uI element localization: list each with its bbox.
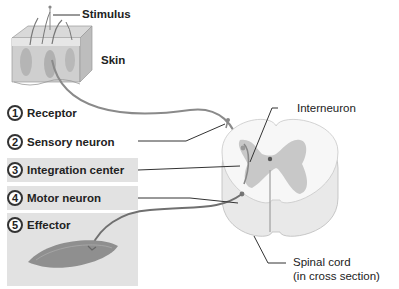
step-integration-center: 3 Integration center bbox=[7, 158, 124, 182]
skin-label: Skin bbox=[101, 54, 125, 66]
motor-neuron-path bbox=[92, 194, 242, 246]
step-number-2: 2 bbox=[7, 134, 23, 150]
step-number-3: 3 bbox=[7, 162, 23, 178]
effector-muscle bbox=[28, 240, 118, 267]
step-number-5: 5 bbox=[7, 217, 23, 233]
step-label-receptor: Receptor bbox=[27, 107, 77, 119]
step-number-4: 4 bbox=[7, 190, 23, 206]
reflex-arc-diagram: Stimulus Skin Interneuron Spinal cord (i… bbox=[0, 0, 399, 289]
step-number-1: 1 bbox=[7, 105, 23, 121]
stimulus-label: Stimulus bbox=[82, 8, 131, 20]
step-receptor: 1 Receptor bbox=[7, 101, 77, 125]
step-label-integration-center: Integration center bbox=[27, 164, 124, 176]
step-label-motor-neuron: Motor neuron bbox=[27, 192, 101, 204]
step-label-sensory-neuron: Sensory neuron bbox=[27, 136, 115, 148]
step-sensory-neuron: 2 Sensory neuron bbox=[7, 130, 115, 154]
skin-illustration bbox=[12, 12, 92, 85]
step-effector: 5 Effector bbox=[7, 213, 70, 237]
step-motor-neuron: 4 Motor neuron bbox=[7, 186, 101, 210]
spinal-cord-cross-section bbox=[222, 119, 338, 236]
spinal-cord-sublabel: (in cross section) bbox=[293, 270, 380, 282]
step-label-effector: Effector bbox=[27, 219, 70, 231]
spinal-cord-label: Spinal cord bbox=[293, 256, 351, 268]
interneuron-label: Interneuron bbox=[297, 102, 356, 114]
